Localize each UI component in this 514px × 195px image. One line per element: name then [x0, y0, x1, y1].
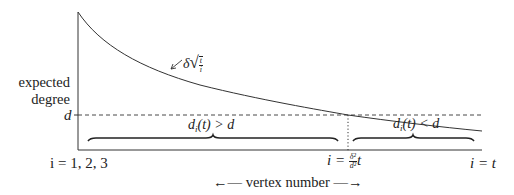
region-right-rest: (t) < d: [403, 116, 440, 131]
d-tick-label: d: [64, 108, 72, 123]
region-right-label: di(t) < d: [393, 117, 439, 133]
region-left-label: di(t) > d: [188, 118, 234, 134]
x-left-label: i = 1, 2, 3: [50, 156, 108, 171]
region-right-d: d: [393, 116, 400, 131]
region-left-d: d: [188, 117, 195, 132]
curve-fraction-den: i: [199, 66, 203, 74]
left-region-brace: [88, 135, 338, 141]
curve-formula-label: δ√ti: [183, 54, 203, 74]
x-right-label: i = t: [470, 156, 496, 171]
region-left-rest: (t) > d: [198, 117, 235, 132]
x-mid-prefix: i =: [327, 152, 349, 168]
x-mid-suffix: t: [357, 152, 361, 168]
x-axis-caption: ←— vertex number —→: [213, 175, 362, 190]
right-region-brace: [353, 135, 474, 141]
x-mid-label: i = δ²d²t: [327, 153, 361, 170]
curve-fraction: ti: [199, 56, 203, 74]
y-axis-label-line2: degree: [31, 91, 70, 107]
sqrt-symbol: √: [190, 53, 199, 72]
x-mid-fraction: δ²d²: [349, 153, 357, 170]
y-axis-label-line1: expected: [18, 74, 70, 90]
expected-degree-curve: [78, 12, 482, 131]
y-axis-label: expected degree: [0, 74, 70, 108]
x-mid-fraction-den: d²: [349, 162, 357, 170]
